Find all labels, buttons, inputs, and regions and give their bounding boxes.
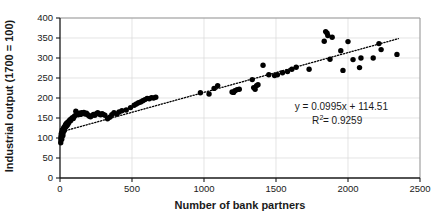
- data-point: [338, 48, 343, 53]
- figure-container: 050100150200250300350400 050010001500200…: [0, 0, 445, 214]
- x-tick-label: 2500: [409, 183, 430, 194]
- svg-text:R: R: [312, 115, 319, 126]
- y-tick-label: 0: [48, 172, 53, 183]
- y-tick-label: 300: [37, 52, 53, 63]
- y-tick-label: 100: [37, 132, 53, 143]
- data-point: [340, 68, 345, 73]
- y-tick-label: 150: [37, 112, 53, 123]
- data-point: [329, 35, 334, 40]
- x-tick-label: 1000: [193, 183, 214, 194]
- scatter-chart: 050100150200250300350400 050010001500200…: [0, 0, 445, 214]
- data-point: [198, 90, 203, 95]
- data-point: [206, 91, 211, 96]
- data-point: [293, 65, 298, 70]
- data-point: [376, 41, 381, 46]
- data-point: [255, 82, 260, 87]
- y-axis-title: Industrial output (1700 = 100): [3, 19, 15, 172]
- data-point: [350, 57, 355, 62]
- y-tick-label: 200: [37, 92, 53, 103]
- data-point: [215, 83, 220, 88]
- data-point: [322, 39, 327, 44]
- x-tick-label: 500: [124, 183, 140, 194]
- data-point: [357, 65, 362, 70]
- data-point: [378, 47, 383, 52]
- y-tick-label: 250: [37, 72, 53, 83]
- data-point: [266, 72, 271, 77]
- data-point: [358, 55, 363, 60]
- data-point: [153, 95, 158, 100]
- data-point: [250, 77, 255, 82]
- data-point: [371, 55, 376, 60]
- data-point: [327, 57, 332, 62]
- y-tick-label: 350: [37, 32, 53, 43]
- y-tick-label: 50: [42, 152, 53, 163]
- svg-text:= 0.9259: = 0.9259: [323, 115, 363, 126]
- x-tick-label: 1500: [265, 183, 286, 194]
- data-point: [345, 39, 350, 44]
- trendline-equation-label: y = 0.0995x + 114.51: [295, 101, 389, 112]
- y-tick-label: 400: [37, 12, 53, 23]
- data-point: [260, 62, 265, 67]
- data-point: [237, 87, 242, 92]
- data-point: [275, 72, 280, 77]
- data-point: [306, 67, 311, 72]
- x-axis-title: Number of bank partners: [175, 199, 306, 211]
- data-point: [280, 70, 285, 75]
- x-tick-label: 2000: [337, 183, 358, 194]
- x-tick-label: 0: [57, 183, 62, 194]
- data-point: [394, 52, 399, 57]
